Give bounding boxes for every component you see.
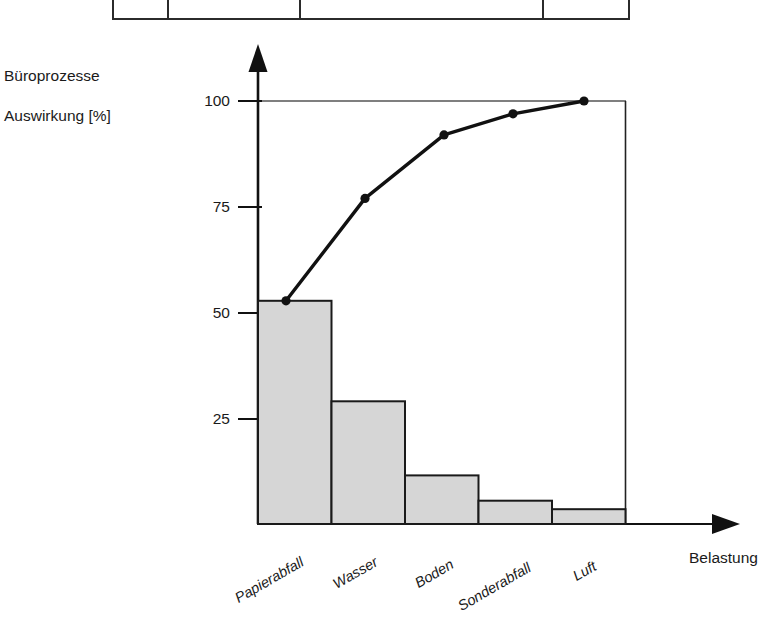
line-point-boden — [439, 130, 448, 139]
x-axis-arrowhead — [712, 514, 740, 534]
cumulative-line — [286, 101, 584, 301]
line-point-luft — [579, 96, 588, 105]
y-tick-label-100: 100 — [186, 93, 230, 109]
bar-luft — [552, 509, 626, 524]
y-tick-label-50: 50 — [186, 305, 230, 321]
bar-wasser — [332, 401, 406, 524]
line-point-sonderabfall — [508, 109, 517, 118]
bar-papierabfall — [258, 301, 332, 524]
bar-boden — [405, 475, 479, 524]
plot-area — [0, 0, 784, 640]
line-point-wasser — [360, 194, 369, 203]
x-axis-label: Belastung — [689, 549, 758, 567]
line-point-papierabfall — [281, 296, 290, 305]
pareto-chart-figure: Büroprozesse Auswirkung [%] 1 — [0, 0, 784, 640]
y-tick-label-25: 25 — [186, 411, 230, 427]
y-tick-label-75: 75 — [186, 199, 230, 215]
bar-sonderabfall — [479, 501, 553, 524]
y-axis-arrowhead — [249, 44, 268, 72]
